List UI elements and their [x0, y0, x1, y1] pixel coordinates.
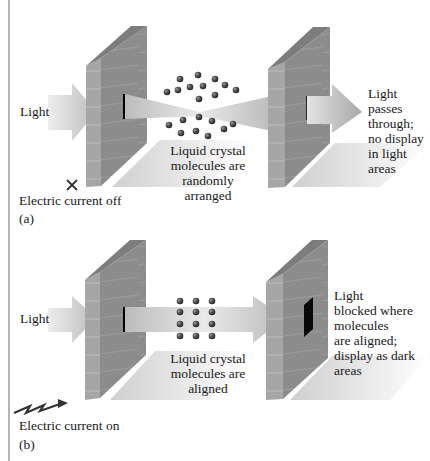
- lightning-bolt-icon: [14, 399, 68, 413]
- panel-tag: (b): [19, 437, 35, 452]
- output-caption: Light passes through; no display in ligh…: [368, 86, 424, 176]
- panel-a-current-off: Light Liquid crystal molecules are rando…: [0, 0, 430, 230]
- input-light-label: Light: [20, 311, 49, 326]
- x-mark-icon: [67, 180, 77, 190]
- liquid-crystal-molecules-random: [164, 72, 240, 140]
- molecule-caption: Liquid crystal molecules are aligned: [158, 351, 258, 396]
- molecule-caption: Liquid crystal molecules are randomly ar…: [158, 143, 258, 203]
- beam-through-crystal: [125, 296, 285, 343]
- input-light-label: Light: [20, 104, 49, 119]
- current-state-label: Electric current on: [19, 418, 119, 433]
- output-caption: Light blocked where molecules are aligne…: [334, 288, 415, 378]
- current-state-label: Electric current off: [19, 193, 121, 208]
- panel-b-current-on: Light Liquid crystal molecules are align…: [0, 230, 430, 460]
- panel-tag: (a): [19, 211, 34, 226]
